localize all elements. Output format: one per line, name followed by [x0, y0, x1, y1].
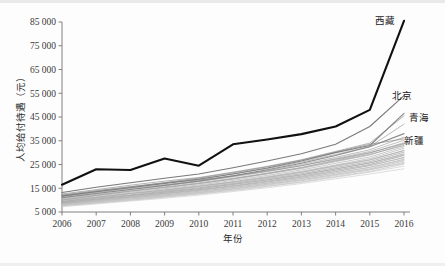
y-tick-label: 35 000 [30, 136, 56, 146]
x-tick-label: 2010 [189, 219, 208, 229]
x-tick-label: 2007 [87, 219, 106, 229]
y-axis-title: 人均给付待遇（元） [15, 72, 26, 162]
y-tick-label: 25 000 [30, 160, 56, 170]
series-annotation-label: 西藏 [375, 15, 395, 26]
y-tick-label: 65 000 [30, 65, 56, 75]
series-annotation-label: 青海 [409, 112, 429, 123]
x-tick-label: 2013 [292, 219, 311, 229]
line-chart-canvas: 5 00015 00025 00035 00045 00055 00065 00… [0, 0, 445, 266]
x-tick-label: 2012 [258, 219, 277, 229]
background-series-group [62, 116, 404, 207]
x-tick-label: 2011 [224, 219, 243, 229]
y-axis-ticks: 5 00015 00025 00035 00045 00055 00065 00… [30, 17, 62, 217]
y-tick-label: 15 000 [30, 184, 56, 194]
chart-figure: 5 00015 00025 00035 00045 00055 00065 00… [0, 0, 445, 266]
x-tick-label: 2015 [360, 219, 379, 229]
y-tick-label: 5 000 [35, 207, 57, 217]
y-tick-label: 75 000 [30, 41, 56, 51]
y-tick-label: 45 000 [30, 112, 56, 122]
x-tick-label: 2008 [121, 219, 140, 229]
series-annotation-label: 北京 [392, 90, 412, 101]
series-annotations: 西藏北京青海新疆 [375, 15, 429, 146]
x-axis-title: 年份 [223, 233, 243, 244]
y-tick-label: 85 000 [30, 17, 56, 27]
x-tick-label: 2016 [395, 219, 414, 229]
x-tick-label: 2014 [326, 219, 345, 229]
x-tick-label: 2009 [155, 219, 174, 229]
x-axis-ticks: 2006200720082009201020112012201320142015… [53, 212, 414, 229]
x-tick-label: 2006 [53, 219, 72, 229]
series-annotation-label: 新疆 [404, 135, 424, 146]
y-tick-label: 55 000 [30, 89, 56, 99]
